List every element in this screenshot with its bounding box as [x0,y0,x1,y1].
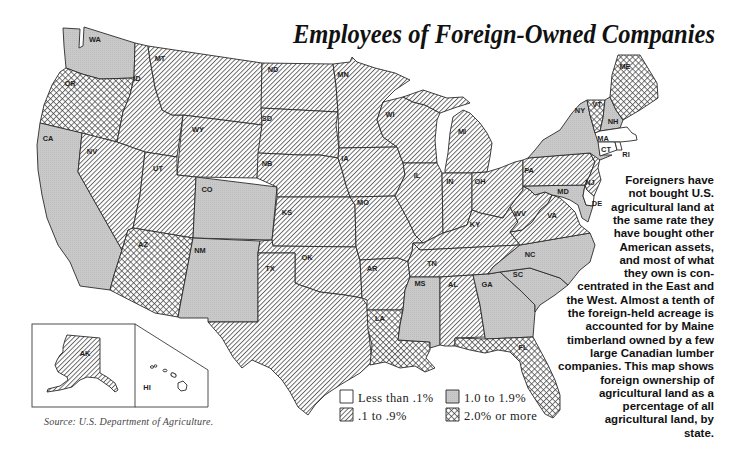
state-label-ct: CT [601,145,611,154]
state-label-me: ME [619,62,630,71]
caption-line: the same rate they [613,214,715,226]
state-label-al: AL [448,280,458,289]
state-label-md: MD [557,187,569,196]
state-label-nj: NJ [585,178,594,187]
inset-alaska: AK [32,324,135,407]
hi-island-oahu [163,369,167,372]
state-label-in: IN [446,177,453,186]
state-label-nv: NV [87,147,97,156]
state-label-wy: WY [192,125,204,134]
caption-line: Foreigners have [625,174,714,186]
state-label-mi: MI [458,127,466,136]
caption-line: not bought U.S. [628,187,714,199]
state-label-ma: MA [597,134,609,143]
state-label-nc: NC [525,250,536,259]
state-wy [177,115,262,178]
legend-label: .1 to .9% [358,409,407,423]
caption-line: centrated in the East and [577,280,714,292]
legend-swatch-white [340,390,353,403]
hi-island-hawaii [178,381,187,391]
caption-line: foreign ownership of [600,374,714,386]
caption-line: agricultural land as a [599,387,715,399]
state-label-id: ID [133,74,141,83]
state-ks [272,197,356,247]
caption-line: the foreign-held acreage is [568,307,714,319]
state-label-sc: SC [513,270,524,279]
state-label-ak: AK [80,349,91,358]
state-label-mn: MN [337,70,349,79]
state-label-ia: IA [341,154,349,163]
state-label-vt: VT [592,100,602,109]
caption-line: the West. Almost a tenth of [566,294,714,306]
state-label-sd: SD [262,114,273,123]
state-label-ri: RI [622,150,629,159]
state-label-ar: AR [367,264,378,273]
state-label-oh: OH [474,177,485,186]
legend-item-less-than-0-1: Less than .1% [340,390,434,405]
state-fl [455,337,560,418]
inset-hawaii: HI [135,324,208,407]
state-label-ks: KS [282,208,292,217]
state-label-nh: NH [608,117,619,126]
state-hi [150,365,187,391]
caption-line: agricultural land at [611,201,714,213]
state-label-ms: MS [414,279,425,288]
caption-line: American assets, [619,241,714,253]
state-label-ga: GA [481,280,493,289]
legend: Less than .1% .1 to .9% 1.0 to 1.9% 2.0%… [340,390,537,423]
hi-island-maui [170,372,177,378]
legend-item-1-0-to-1-9: 1.0 to 1.9% [446,390,526,405]
caption-line: percentage of all [623,400,714,412]
legend-label: 1.0 to 1.9% [464,391,526,405]
legend-item-0-1-to-0-9: .1 to .9% [340,408,407,423]
foreign-ownership-map-figure: Employees of Foreign-Owned Companies [0,0,744,455]
state-label-nm: NM [194,246,206,255]
state-label-ky: KY [470,220,480,229]
state-label-mt: MT [155,54,166,63]
state-label-fl: FL [518,343,528,352]
state-label-ny: NY [575,106,585,115]
state-label-nb: NB [262,159,273,168]
state-label-de: DE [592,199,602,208]
legend-label: 2.0% or more [464,409,537,423]
state-label-mo: MO [357,198,369,207]
state-label-tx: TX [265,264,275,273]
state-me [610,55,658,120]
state-label-la: LA [375,314,386,323]
state-label-tn: TN [427,259,437,268]
legend-swatch-stripe [340,408,353,421]
state-label-il: IL [414,171,421,180]
state-label-ca: CA [43,134,54,143]
caption-line: timberland owned by a few [567,334,714,346]
state-ak [47,335,118,392]
state-label-wv: WV [514,209,526,218]
state-label-nd: ND [268,65,279,74]
state-label-va: VA [547,211,557,220]
caption-line: and most of what [619,254,714,266]
state-label-or: OR [64,79,76,88]
hi-island-niihau [150,366,153,369]
legend-label: Less than .1% [358,391,434,405]
state-label-co: CO [201,185,212,194]
caption-line: have bought other [614,227,715,239]
state-nm [178,238,260,322]
caption-line: accounted for by Maine [586,320,714,332]
state-label-ok: OK [301,253,313,262]
state-label-wi: WI [385,110,394,119]
map-title: Employees of Foreign-Owned Companies [292,19,715,49]
caption-line: state. [684,427,714,439]
hawaii-inset-frame [135,324,208,407]
caption-line: companies. This map shows [558,360,714,372]
caption-line: agricultural land, by [605,413,715,425]
state-label-pa: PA [524,166,534,175]
state-label-hi: HI [143,383,150,392]
legend-swatch-gray [446,390,459,403]
hi-island-kauai [154,365,157,367]
legend-item-2-0-or-more: 2.0% or more [446,408,537,423]
state-label-az: AZ [138,240,148,249]
state-label-wa: WA [89,35,102,44]
source-note: Source: U.S. Department of Agriculture. [44,416,213,427]
caption-line: large Canadian lumber [590,347,715,359]
legend-swatch-crosshatch [446,408,459,421]
state-label-ut: UT [153,164,163,173]
